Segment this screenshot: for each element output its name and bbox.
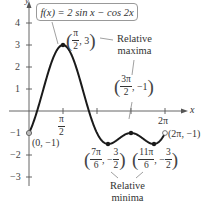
annotation-relative-maxima: Relative maxima (117, 33, 152, 57)
x-tick-2pi: 2π (158, 116, 168, 126)
point-label-max-1: ( π2 , 3 ) (66, 29, 95, 51)
point-label-max-2: ( 3π2 , −1 ) (114, 75, 154, 97)
point-label-end: (2π, −1) (168, 129, 200, 139)
y-tick-3: 3 (15, 40, 20, 50)
end-point-open-marker (163, 131, 168, 136)
point-label-origin: (0, −1) (32, 138, 59, 148)
start-point-open-marker (26, 130, 31, 135)
y-tick-2: 2 (15, 62, 20, 72)
y-tick-1: 1 (15, 84, 20, 94)
x-axis-label: x (190, 105, 194, 115)
y-tick-neg2: −2 (10, 150, 21, 160)
x-axis-arrow-icon (181, 109, 188, 114)
point-label-min-2: ( 11π6 , − 32 ) (132, 148, 178, 170)
annotation-relative-minima: Relative minima (110, 180, 145, 204)
y-tick-neg1: −1 (10, 128, 21, 138)
min-point-marker-2 (152, 142, 156, 146)
y-axis-label: y (25, 0, 29, 5)
x-tick-pi-over-2: π2 (58, 115, 65, 137)
y-tick-neg3: −3 (10, 172, 21, 182)
y-tick-4: 4 (15, 18, 20, 28)
point-label-min-1: ( 7π6 , − 32 ) (84, 148, 126, 170)
max-point-marker (61, 43, 65, 47)
min-point-marker-1 (106, 142, 110, 146)
chart-canvas (0, 0, 211, 209)
max-point-marker-2 (129, 131, 133, 135)
function-label: f(x) = 2 sin x − cos 2x (36, 3, 138, 21)
